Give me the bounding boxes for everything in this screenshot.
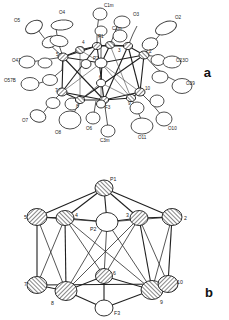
atom-label: P2	[90, 226, 96, 232]
atom-label: O2	[175, 15, 182, 20]
atom-label: O3	[133, 12, 140, 17]
atom-label: 9	[128, 101, 131, 106]
atom-label: O10	[168, 126, 177, 131]
atom-label: C3m	[100, 138, 110, 143]
atom-label: 2	[184, 215, 187, 221]
atom-label: P2	[93, 56, 99, 61]
atom-label: C2m	[112, 26, 122, 31]
atom-label: P1	[98, 34, 104, 39]
panel-a-drawing: O5 O4 C1m C2m O3 O2 P1 O47 O23O O57B O29…	[0, 0, 229, 158]
atom-label: O57B	[4, 78, 16, 83]
atom-label: O23O	[176, 58, 189, 63]
atom-label: 6	[113, 270, 116, 276]
atom-label: 10	[145, 86, 151, 91]
atom-label: O8	[55, 130, 62, 135]
atom-label: 8	[51, 300, 54, 306]
atom-label: 5	[24, 214, 27, 220]
atom-label: O6	[86, 126, 93, 131]
atom-label: P1	[110, 176, 116, 182]
atom-label: O5	[14, 18, 21, 23]
atom-label: C1m	[104, 3, 114, 8]
thermal-ellipsoids-group	[19, 8, 192, 137]
atom-label: O4	[59, 10, 66, 15]
atom-label: O11	[138, 135, 147, 140]
atom-label: F3	[114, 310, 120, 316]
panel-b-polyhedral-core-figure: P1 5 4 3 2 P2 6 7 10 8 9 F3 b	[0, 158, 229, 320]
atom-label: O47	[12, 58, 21, 63]
atom-label: 5	[56, 52, 59, 57]
atom-label: 7	[55, 88, 58, 93]
atom-label: 3	[126, 212, 129, 218]
atom-label: 2	[149, 49, 152, 54]
atom-label: 10	[177, 279, 183, 285]
panel-letter-b: b	[205, 286, 213, 299]
atom-label: O29	[186, 81, 195, 86]
atom-label: 3	[118, 48, 121, 53]
panel-letter-a: a	[204, 66, 211, 79]
atom-label: 9	[160, 299, 163, 305]
panel-b-drawing: P1 5 4 3 2 P2 6 7 10 8 9 F3	[0, 158, 229, 320]
atom-label: 4	[82, 40, 85, 45]
atom-label: F3	[105, 105, 111, 110]
atom-label: 8	[76, 104, 79, 109]
atom-label: 7	[24, 281, 27, 287]
atom-label: 6	[99, 75, 102, 80]
atom-label: O7	[22, 118, 29, 123]
atom-label: 4	[75, 212, 78, 218]
panel-a-ortep-figure: O5 O4 C1m C2m O3 O2 P1 O47 O23O O57B O29…	[0, 0, 229, 158]
